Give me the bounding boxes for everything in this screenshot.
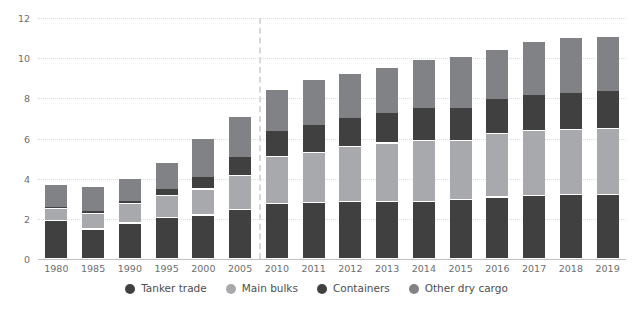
bar-segment-2017-main-bulks <box>523 131 545 194</box>
legend-label: Other dry cargo <box>425 283 508 294</box>
y-axis-label-8: 8 <box>4 94 30 104</box>
bar-segment-2011-tanker-trade <box>303 203 325 258</box>
bar-segment-1995-main-bulks <box>156 196 178 217</box>
bar-segment-2015-tanker-trade <box>450 200 472 258</box>
bar-segment-1990-main-bulks <box>119 204 141 223</box>
bar-segment-2013-containers <box>376 113 398 143</box>
bar-segment-2010-containers <box>266 131 288 156</box>
bar-segment-2000-main-bulks <box>192 190 214 215</box>
bar-segment-1985-containers <box>82 211 104 212</box>
bar-segment-2005-other-dry-cargo <box>229 117 251 156</box>
bar-segment-1985-main-bulks <box>82 214 104 229</box>
bar-segment-2017-other-dry-cargo <box>523 42 545 95</box>
bar-segment-2000-other-dry-cargo <box>192 139 214 177</box>
bar-2013[interactable] <box>376 18 398 259</box>
bar-segment-2014-main-bulks <box>413 141 435 201</box>
bar-segment-2016-tanker-trade <box>486 198 508 258</box>
bar-2015[interactable] <box>450 18 472 259</box>
bar-segment-2014-tanker-trade <box>413 202 435 258</box>
legend-label: Tanker trade <box>141 283 207 294</box>
bar-segment-2011-other-dry-cargo <box>303 80 325 125</box>
bar-2011[interactable] <box>303 18 325 259</box>
y-axis-label-0: 0 <box>4 255 30 265</box>
bar-1985[interactable] <box>82 18 104 259</box>
bar-segment-2013-main-bulks <box>376 144 398 201</box>
bar-segment-2005-tanker-trade <box>229 210 251 257</box>
y-axis-label-6: 6 <box>4 135 30 145</box>
bar-2005[interactable] <box>229 18 251 259</box>
bar-segment-1980-containers <box>45 207 67 208</box>
bar-segment-2010-main-bulks <box>266 157 288 203</box>
bar-segment-2012-other-dry-cargo <box>339 74 361 118</box>
bar-segment-2010-other-dry-cargo <box>266 90 288 131</box>
bar-segment-2018-other-dry-cargo <box>560 38 582 93</box>
bar-segment-2016-containers <box>486 99 508 132</box>
bar-segment-2013-other-dry-cargo <box>376 68 398 113</box>
legend-item-tanker-trade[interactable]: Tanker trade <box>125 283 207 294</box>
bar-segment-2019-other-dry-cargo <box>597 37 619 90</box>
bar-segment-2019-containers <box>597 91 619 128</box>
bar-segment-1995-other-dry-cargo <box>156 163 178 189</box>
bar-segment-2016-main-bulks <box>486 134 508 196</box>
bar-segment-2015-containers <box>450 108 472 140</box>
bar-2019[interactable] <box>597 18 619 259</box>
legend-item-containers[interactable]: Containers <box>317 283 390 294</box>
gridline-0 <box>38 259 626 260</box>
legend-item-main-bulks[interactable]: Main bulks <box>226 283 298 294</box>
y-axis-label-4: 4 <box>4 175 30 185</box>
bar-segment-1990-tanker-trade <box>119 224 141 258</box>
legend-swatch-icon <box>125 284 135 294</box>
y-axis-label-2: 2 <box>4 215 30 225</box>
bar-segment-2014-containers <box>413 108 435 140</box>
bar-2014[interactable] <box>413 18 435 259</box>
bar-segment-2005-main-bulks <box>229 176 251 209</box>
legend-swatch-icon <box>317 284 327 294</box>
bar-segment-2018-containers <box>560 93 582 129</box>
legend-swatch-icon <box>409 284 419 294</box>
bar-segment-1990-containers <box>119 201 141 203</box>
y-axis-label-10: 10 <box>4 54 30 64</box>
bar-2000[interactable] <box>192 18 214 259</box>
bar-segment-1980-tanker-trade <box>45 221 67 257</box>
bar-segment-1980-other-dry-cargo <box>45 185 67 207</box>
bar-segment-2010-tanker-trade <box>266 204 288 258</box>
x-axis-label-2019: 2019 <box>584 264 632 274</box>
bar-segment-2015-other-dry-cargo <box>450 57 472 107</box>
bar-segment-2012-containers <box>339 118 361 146</box>
bar-1980[interactable] <box>45 18 67 259</box>
plot-area <box>38 18 626 259</box>
bar-2010[interactable] <box>266 18 288 259</box>
bar-2012[interactable] <box>339 18 361 259</box>
bar-segment-2019-tanker-trade <box>597 195 619 257</box>
bar-segment-2000-tanker-trade <box>192 216 214 258</box>
bar-segment-2018-main-bulks <box>560 130 582 193</box>
bar-segment-2019-main-bulks <box>597 129 619 194</box>
chart-legend: Tanker tradeMain bulksContainersOther dr… <box>0 283 633 294</box>
bar-segment-1985-tanker-trade <box>82 230 104 258</box>
legend-label: Containers <box>333 283 390 294</box>
bar-2017[interactable] <box>523 18 545 259</box>
forecast-divider-line <box>259 18 261 259</box>
bar-segment-2005-containers <box>229 157 251 175</box>
bar-2018[interactable] <box>560 18 582 259</box>
bar-segment-2014-other-dry-cargo <box>413 60 435 108</box>
bar-segment-2015-main-bulks <box>450 141 472 199</box>
legend-item-other-dry-cargo[interactable]: Other dry cargo <box>409 283 508 294</box>
bar-segment-1990-other-dry-cargo <box>119 179 141 201</box>
bar-1995[interactable] <box>156 18 178 259</box>
bar-segment-2012-tanker-trade <box>339 202 361 258</box>
bar-segment-1980-main-bulks <box>45 209 67 220</box>
legend-swatch-icon <box>226 284 236 294</box>
bar-1990[interactable] <box>119 18 141 259</box>
bar-segment-2011-containers <box>303 125 325 152</box>
legend-label: Main bulks <box>242 283 298 294</box>
bar-segment-2018-tanker-trade <box>560 195 582 258</box>
bar-segment-2011-main-bulks <box>303 153 325 202</box>
bar-segment-2017-containers <box>523 95 545 131</box>
bar-segment-2017-tanker-trade <box>523 196 545 258</box>
bar-segment-2000-containers <box>192 177 214 188</box>
bar-segment-1995-tanker-trade <box>156 218 178 258</box>
bar-2016[interactable] <box>486 18 508 259</box>
bar-segment-1985-other-dry-cargo <box>82 187 104 211</box>
stacked-bar-chart: 024681012 198019851990199520002005201020… <box>0 0 633 309</box>
